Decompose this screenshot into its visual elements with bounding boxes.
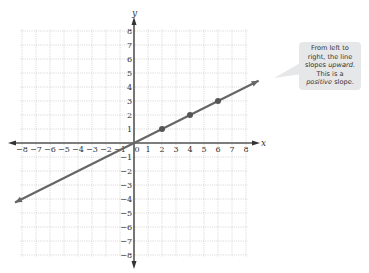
x-tick-label: 2 [159, 145, 164, 154]
callout-line-3: slopes upward. [299, 61, 361, 70]
data-point [215, 98, 221, 104]
x-tick-label: 7 [229, 145, 234, 154]
x-tick-label: −7 [30, 145, 42, 154]
x-tick-label: 8 [243, 145, 248, 154]
x-tick-label: 6 [215, 145, 220, 154]
x-tick-label: 1 [145, 145, 150, 154]
y-tick-label: −3 [120, 181, 132, 190]
y-tick-label: −1 [120, 153, 132, 162]
x-tick-label: −8 [16, 145, 28, 154]
y-axis-label: y [131, 8, 138, 18]
x-tick-label: 5 [201, 145, 206, 154]
data-point [187, 112, 193, 118]
x-tick-labels: −8−7−6−5−4−3−2−1012345678 [16, 145, 248, 154]
data-line [15, 81, 259, 203]
y-tick-label: 8 [127, 27, 132, 36]
callout-pointer [274, 62, 302, 78]
x-tick-label: −4 [72, 145, 84, 154]
callout-emphasis-upward: upward [328, 61, 353, 69]
y-tick-label: 7 [127, 41, 132, 50]
callout-line-5: positive slope. [299, 78, 361, 87]
x-tick-label: −3 [86, 145, 98, 154]
y-tick-label: 1 [127, 125, 132, 134]
callout-line-1: From left to [299, 44, 361, 53]
callout-line-4: This is a [299, 70, 361, 79]
y-tick-label: 2 [127, 111, 132, 120]
y-tick-label: −8 [120, 251, 132, 260]
y-tick-label: −5 [120, 209, 132, 218]
data-point [159, 126, 165, 132]
callout-line-2: right, the line [299, 53, 361, 62]
y-tick-label: 3 [127, 97, 132, 106]
x-axis-label: x [261, 138, 266, 148]
y-tick-label: −6 [120, 223, 132, 232]
y-tick-label: −4 [120, 195, 132, 204]
x-tick-label: 4 [187, 145, 192, 154]
slope-callout: From left to right, the line slopes upwa… [299, 42, 361, 90]
coordinate-plane: −8−7−6−5−4−3−2−1012345678 −8−7−6−5−4−3−2… [0, 0, 369, 273]
callout-text: slope. [332, 78, 354, 86]
y-tick-label: 4 [127, 83, 132, 92]
x-tick-label: −6 [44, 145, 56, 154]
callout-emphasis-positive: positive [306, 78, 332, 86]
x-tick-label: 3 [173, 145, 178, 154]
y-tick-label: −7 [120, 237, 132, 246]
callout-text: slopes [305, 61, 328, 69]
x-tick-label: 0 [134, 145, 139, 154]
y-tick-label: 6 [127, 55, 132, 64]
x-tick-label: −5 [58, 145, 70, 154]
y-tick-label: 5 [127, 69, 132, 78]
callout-text: . [353, 61, 355, 69]
x-tick-label: −2 [100, 145, 112, 154]
y-tick-label: −2 [120, 167, 132, 176]
